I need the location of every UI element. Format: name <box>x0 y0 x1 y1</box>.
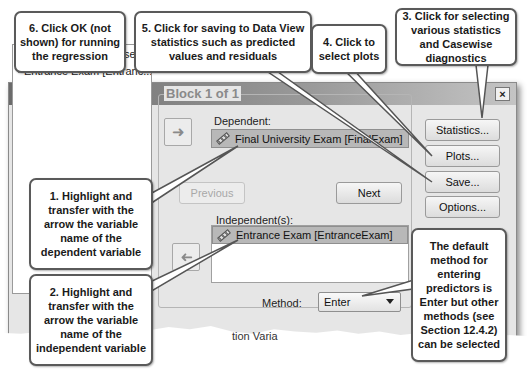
independents-list[interactable]: Entrance Exam [EntranceExam] <box>211 225 409 283</box>
save-button[interactable]: Save... <box>425 171 500 193</box>
independent-value: Entrance Exam [EntranceExam] <box>236 229 393 241</box>
method-value: Enter <box>324 296 350 308</box>
method-label: Method: <box>262 297 302 309</box>
callout-dependent-step-1: 1. Highlight and transfer with the arrow… <box>29 178 153 270</box>
callout-plots-step-4: 4. Click to select plots <box>311 24 387 74</box>
callout-ok-step-6: 6. Click OK (not shown) for running the … <box>14 11 126 73</box>
dropdown-caret-icon <box>386 299 394 304</box>
independent-item[interactable]: Entrance Exam [EntranceExam] <box>212 226 408 244</box>
close-button[interactable]: × <box>495 87 510 101</box>
arrow-left-icon: ➜ <box>180 248 193 266</box>
previous-button[interactable]: Previous <box>179 182 245 204</box>
callout-method-info: The default method for entering predicto… <box>411 228 507 362</box>
method-select[interactable]: Enter <box>318 292 401 312</box>
scale-ruler-icon <box>217 229 231 242</box>
callout-save-step-5: 5. Click for saving to Data View statist… <box>134 11 312 73</box>
move-from-independents-button[interactable]: ➜ <box>172 243 200 271</box>
statistics-button[interactable]: Statistics... <box>425 119 500 141</box>
options-button[interactable]: Options... <box>425 196 500 218</box>
callout-independent-step-2: 2. Highlight and transfer with the arrow… <box>29 274 153 366</box>
callout-statistics-step-3: 3. Click for selecting various statistic… <box>395 8 517 66</box>
block-legend: Block 1 of 1 <box>164 86 241 101</box>
next-button[interactable]: Next <box>336 182 402 204</box>
plots-button[interactable]: Plots... <box>425 145 500 167</box>
selection-variable-label-partial: tion Varia <box>232 330 278 342</box>
